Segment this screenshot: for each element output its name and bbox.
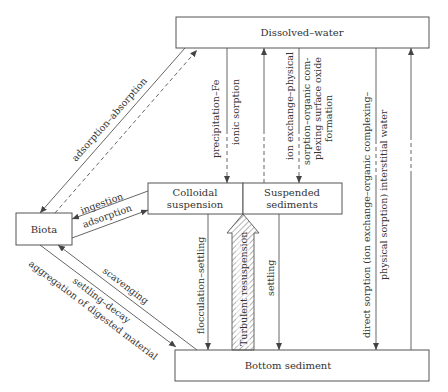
node-colloidal-suspension: Colloidal suspension bbox=[148, 183, 243, 214]
label-direct-sorption-2: physical sorption) interstitial water bbox=[378, 109, 389, 280]
node-dissolved-water-label: Dissolved–water bbox=[261, 27, 344, 38]
node-bottom-sediment-label: Bottom sediment bbox=[245, 360, 332, 371]
node-biota-label: Biota bbox=[31, 224, 58, 235]
label-aggregation: aggregation of digested material bbox=[27, 258, 160, 362]
label-precipitation-fe: precipitation–Fe bbox=[210, 79, 221, 158]
label-turbulent-resuspension: Turbulent resuspension bbox=[238, 232, 249, 346]
label-ion-exchange-1: ion exchange–physical bbox=[284, 52, 295, 160]
node-colloidal-label-1: Colloidal bbox=[173, 187, 218, 198]
node-bottom-sediment: Bottom sediment bbox=[175, 350, 429, 381]
label-adsorption-absorption: adsorption–absorption bbox=[69, 75, 149, 163]
label-settling: settling bbox=[265, 260, 276, 296]
node-suspended-sediments: Suspended sediments bbox=[243, 183, 342, 214]
label-ion-exchange-2: sorption–organic com- bbox=[301, 58, 312, 165]
edge-biota-to-bottom bbox=[40, 245, 176, 347]
label-ion-exchange-4: formation bbox=[323, 95, 334, 142]
label-flocculation-settling: flocculation–settling bbox=[195, 237, 206, 334]
node-suspended-label-1: Suspended bbox=[264, 187, 321, 198]
node-dissolved-water: Dissolved–water bbox=[176, 17, 429, 48]
node-biota: Biota bbox=[16, 213, 72, 245]
flow-diagram: Dissolved–water Colloidal suspension Sus… bbox=[0, 0, 448, 392]
label-direct-sorption-1: direct sorption (ion exchange–organic co… bbox=[361, 91, 372, 338]
label-ion-exchange-3: plexing surface oxide bbox=[312, 57, 323, 160]
node-suspended-label-2: sediments bbox=[266, 199, 318, 210]
node-colloidal-label-2: suspension bbox=[167, 199, 224, 210]
label-ionic-sorption: ionic sorption bbox=[230, 79, 241, 145]
